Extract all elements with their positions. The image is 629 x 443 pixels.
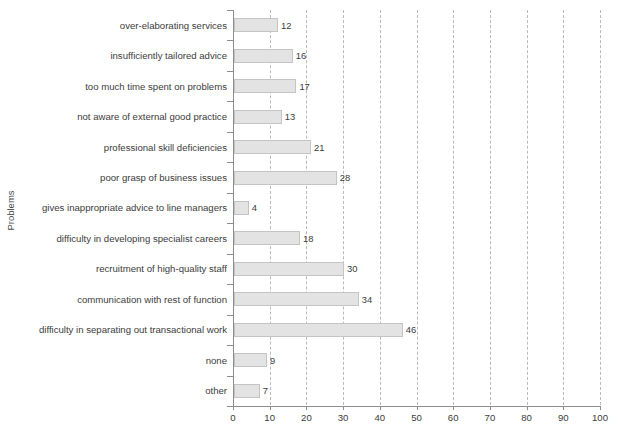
category-label: professional skill deficiencies xyxy=(0,142,227,153)
category-label: communication with rest of function xyxy=(0,294,227,305)
x-tick-label: 100 xyxy=(580,412,620,423)
category-label: recruitment of high-quality staff xyxy=(0,263,227,274)
bar-value-label: 16 xyxy=(296,50,306,61)
bar-row: too much time spent on problems17 xyxy=(0,71,629,101)
x-tick-label: 30 xyxy=(323,412,363,423)
y-tick-mark xyxy=(227,101,233,102)
bar-chart: Problems over-elaborating services12insu… xyxy=(0,0,629,443)
bar[interactable] xyxy=(234,18,278,32)
bar-container: 9 xyxy=(234,345,275,375)
bar-row: poor grasp of business issues28 xyxy=(0,162,629,192)
x-tick-label: 60 xyxy=(433,412,473,423)
x-tick-mark-10 xyxy=(270,406,271,410)
x-tick-mark-40 xyxy=(380,406,381,410)
x-tick-label: 10 xyxy=(250,412,290,423)
category-label: not aware of external good practice xyxy=(0,111,227,122)
bar-value-label: 28 xyxy=(340,172,350,183)
x-tick-mark-50 xyxy=(417,406,418,410)
x-tick-mark-30 xyxy=(343,406,344,410)
bar-value-label: 46 xyxy=(406,324,416,335)
bar-row: not aware of external good practice13 xyxy=(0,101,629,131)
category-label: difficulty in separating out transaction… xyxy=(0,324,227,335)
bar[interactable] xyxy=(234,323,403,337)
category-label: other xyxy=(0,385,227,396)
bar-row: gives inappropriate advice to line manag… xyxy=(0,193,629,223)
bar-value-label: 12 xyxy=(281,20,291,31)
y-tick-mark xyxy=(227,10,233,11)
x-tick-label: 90 xyxy=(543,412,583,423)
bar[interactable] xyxy=(234,231,300,245)
x-tick-mark-70 xyxy=(490,406,491,410)
y-tick-mark xyxy=(227,162,233,163)
bar-container: 16 xyxy=(234,40,306,70)
category-label: gives inappropriate advice to line manag… xyxy=(0,202,227,213)
x-tick-label: 20 xyxy=(286,412,326,423)
y-tick-mark xyxy=(227,315,233,316)
x-tick-mark-20 xyxy=(306,406,307,410)
bar-value-label: 30 xyxy=(347,263,357,274)
bar-row: recruitment of high-quality staff30 xyxy=(0,254,629,284)
y-tick-mark xyxy=(227,71,233,72)
bar[interactable] xyxy=(234,292,359,306)
x-tick-label: 80 xyxy=(507,412,547,423)
bar-row: difficulty in separating out transaction… xyxy=(0,315,629,345)
bar[interactable] xyxy=(234,49,293,63)
bar[interactable] xyxy=(234,201,249,215)
bar-row: over-elaborating services12 xyxy=(0,10,629,40)
x-tick-mark-60 xyxy=(453,406,454,410)
bar-container: 4 xyxy=(234,193,257,223)
bar-container: 7 xyxy=(234,376,268,406)
bar-value-label: 9 xyxy=(270,355,275,366)
bar-row: insufficiently tailored advice16 xyxy=(0,40,629,70)
category-label: over-elaborating services xyxy=(0,20,227,31)
bar-value-label: 17 xyxy=(299,81,309,92)
category-label: too much time spent on problems xyxy=(0,81,227,92)
bar-value-label: 34 xyxy=(362,294,372,305)
y-tick-mark xyxy=(227,132,233,133)
bar-container: 13 xyxy=(234,101,295,131)
y-tick-mark xyxy=(227,193,233,194)
y-tick-mark xyxy=(227,284,233,285)
bar-value-label: 18 xyxy=(303,233,313,244)
bar[interactable] xyxy=(234,262,344,276)
bar-container: 28 xyxy=(234,162,350,192)
category-label: poor grasp of business issues xyxy=(0,172,227,183)
bar-container: 34 xyxy=(234,284,372,314)
bar-container: 46 xyxy=(234,315,416,345)
category-label: difficulty in developing specialist care… xyxy=(0,233,227,244)
x-tick-label: 70 xyxy=(470,412,510,423)
x-tick-mark-90 xyxy=(563,406,564,410)
bar-row: none9 xyxy=(0,345,629,375)
y-tick-mark xyxy=(227,345,233,346)
x-tick-mark-0 xyxy=(233,406,234,410)
y-tick-mark xyxy=(227,376,233,377)
bar[interactable] xyxy=(234,110,282,124)
bar-row: communication with rest of function34 xyxy=(0,284,629,314)
bar[interactable] xyxy=(234,140,311,154)
y-tick-mark xyxy=(227,223,233,224)
bar-container: 12 xyxy=(234,10,291,40)
bar-value-label: 13 xyxy=(285,111,295,122)
bar-value-label: 21 xyxy=(314,142,324,153)
bar[interactable] xyxy=(234,384,260,398)
bar-row: professional skill deficiencies21 xyxy=(0,132,629,162)
x-tick-label: 40 xyxy=(360,412,400,423)
bar-container: 30 xyxy=(234,254,358,284)
bar[interactable] xyxy=(234,79,296,93)
bar-row: other7 xyxy=(0,376,629,406)
x-tick-label: 0 xyxy=(213,412,253,423)
x-tick-label: 50 xyxy=(397,412,437,423)
y-tick-mark xyxy=(227,40,233,41)
category-label: none xyxy=(0,355,227,366)
bar-value-label: 7 xyxy=(263,385,268,396)
y-tick-mark xyxy=(227,254,233,255)
bar[interactable] xyxy=(234,353,267,367)
bar-row: difficulty in developing specialist care… xyxy=(0,223,629,253)
x-tick-mark-100 xyxy=(600,406,601,410)
bar-container: 18 xyxy=(234,223,313,253)
x-tick-mark-80 xyxy=(527,406,528,410)
bar-rows: over-elaborating services12insufficientl… xyxy=(0,10,629,406)
x-axis-ticks: 0102030405060708090100 xyxy=(0,406,629,436)
bar[interactable] xyxy=(234,171,337,185)
category-label: insufficiently tailored advice xyxy=(0,50,227,61)
